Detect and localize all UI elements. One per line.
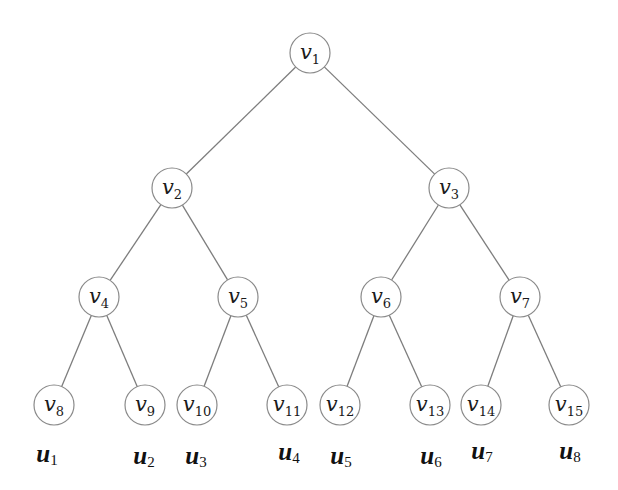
tree-edges bbox=[62, 67, 561, 387]
edge-v3-v7 bbox=[460, 205, 509, 280]
tree-node-v14: v14 bbox=[461, 385, 501, 425]
edge-v3-v6 bbox=[392, 205, 439, 280]
leaf-label-u8: u8 bbox=[559, 437, 580, 465]
edge-v1-v3 bbox=[324, 67, 434, 174]
binary-tree-diagram: v1v2v3v4v5v6v7v8v9v10v11v12v13v14v15 u1u… bbox=[0, 0, 618, 490]
edge-v2-v4 bbox=[110, 205, 161, 281]
tree-node-v13: v13 bbox=[410, 385, 450, 425]
edge-v1-v2 bbox=[186, 67, 295, 174]
edge-v4-v8 bbox=[62, 316, 92, 387]
leaf-label-u3: u3 bbox=[185, 442, 206, 470]
tree-node-v1: v1 bbox=[290, 33, 330, 73]
leaf-label-u5: u5 bbox=[330, 442, 351, 470]
edge-v5-v11 bbox=[246, 315, 278, 387]
edge-v7-v15 bbox=[528, 315, 560, 387]
leaf-label-u6: u6 bbox=[420, 442, 442, 470]
tree-node-v10: v10 bbox=[177, 385, 217, 425]
edge-v6-v12 bbox=[347, 316, 374, 387]
tree-node-v15: v15 bbox=[549, 385, 589, 425]
tree-node-v5: v5 bbox=[218, 277, 258, 317]
tree-node-v2: v2 bbox=[152, 168, 192, 208]
tree-node-v7: v7 bbox=[500, 277, 540, 317]
tree-node-v6: v6 bbox=[361, 277, 401, 317]
leaf-label-u4: u4 bbox=[278, 438, 300, 466]
tree-node-v9: v9 bbox=[125, 385, 165, 425]
edge-v4-v9 bbox=[107, 315, 137, 386]
edge-v5-v10 bbox=[204, 316, 231, 387]
tree-node-v12: v12 bbox=[320, 385, 360, 425]
tree-nodes: v1v2v3v4v5v6v7v8v9v10v11v12v13v14v15 bbox=[34, 33, 589, 425]
edge-v2-v5 bbox=[182, 205, 227, 280]
tree-node-v8: v8 bbox=[34, 385, 74, 425]
edge-v6-v13 bbox=[389, 315, 421, 387]
edge-v7-v14 bbox=[488, 316, 513, 386]
leaf-labels: u1u2u3u4u5u6u7u8 bbox=[36, 437, 580, 470]
leaf-label-u1: u1 bbox=[36, 440, 57, 468]
leaf-label-u2: u2 bbox=[133, 442, 154, 470]
tree-node-v11: v11 bbox=[267, 385, 307, 425]
tree-node-v4: v4 bbox=[79, 277, 119, 317]
tree-node-v3: v3 bbox=[429, 168, 469, 208]
leaf-label-u7: u7 bbox=[471, 437, 493, 465]
